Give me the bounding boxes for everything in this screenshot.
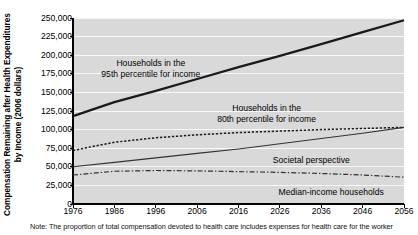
y-axis-tick-label: 150,000 (24, 88, 72, 97)
y-axis-tick-label: 225,000 (24, 32, 72, 41)
label-societal-line: Societal perspective (105, 155, 418, 166)
x-axis-tick-label: 1976 (53, 206, 93, 216)
x-axis-tick-label: 2056 (384, 206, 418, 216)
y-axis-title: Compensation Remaining after Health Expe… (2, 10, 23, 220)
y-axis-tick-label: 75,000 (24, 144, 72, 153)
x-axis-tick-label: 1996 (136, 206, 176, 216)
y-axis-title-text: Compensation Remaining after Health Expe… (2, 13, 23, 216)
label-median: Median-income households (125, 187, 418, 198)
x-axis-tick-labels: 197619861996200620162026203620462056 (0, 206, 412, 220)
y-axis-tick-label: 250,000 (24, 14, 72, 23)
label-80th-line: 80th percentile for income (61, 114, 418, 125)
label-95th-line: 95th percentile for income (0, 69, 357, 80)
x-axis-tick-label: 2026 (260, 206, 300, 216)
x-axis-tick-label: 1986 (94, 206, 134, 216)
label-median-line: Median-income households (125, 187, 418, 198)
label-80th-line: Households in the (61, 103, 418, 114)
x-axis-tick-label: 2046 (343, 206, 383, 216)
y-axis-tick-label: 25,000 (24, 181, 72, 190)
y-axis-tick-label: 50,000 (24, 162, 72, 171)
figure-note: Note: The proportion of total compensati… (30, 222, 393, 231)
label-95th: Households in the95th percentile for inc… (0, 58, 357, 79)
x-axis-tick-label: 2016 (219, 206, 259, 216)
label-societal: Societal perspective (105, 155, 418, 166)
y-axis-tick-label: 100,000 (24, 125, 72, 134)
x-axis-tick-label: 2036 (301, 206, 341, 216)
label-80th: Households in the80th percentile for inc… (61, 103, 418, 124)
x-axis-tick-label: 2006 (177, 206, 217, 216)
label-95th-line: Households in the (0, 58, 357, 69)
